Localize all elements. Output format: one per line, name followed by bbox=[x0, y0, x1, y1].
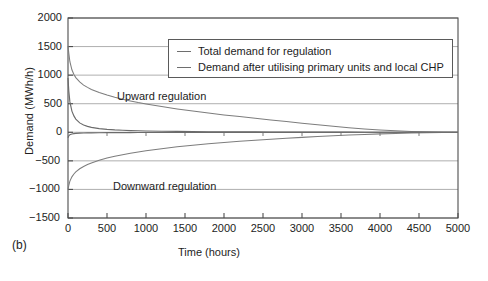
x-axis-label: Time (hours) bbox=[178, 246, 240, 258]
legend-label-total: Total demand for regulation bbox=[198, 45, 331, 57]
chart-legend: Total demand for regulation Demand after… bbox=[168, 39, 453, 78]
y-tick-label: −500 bbox=[14, 154, 60, 166]
x-tick-marks bbox=[68, 213, 458, 218]
legend-label-after: Demand after utilising primary units and… bbox=[198, 61, 444, 73]
legend-after-primary: Demand after utilising primary units and… bbox=[177, 59, 444, 75]
legend-line-swatch-after bbox=[177, 67, 191, 68]
panel-caption: (b) bbox=[12, 238, 27, 252]
x-tick-label: 5000 bbox=[435, 222, 481, 234]
annotation-downward-regulation: Downward regulation bbox=[113, 180, 216, 192]
figure-panel-b: 2000 1500 1000 500 0 −500 −1000 −1500 0 … bbox=[0, 0, 488, 281]
legend-line-swatch-total bbox=[177, 51, 191, 52]
curve-after-primary-upward bbox=[68, 78, 458, 132]
y-tick-label: −1000 bbox=[14, 182, 60, 194]
annotation-upward-regulation: Upward regulation bbox=[117, 90, 206, 102]
legend-total-demand: Total demand for regulation bbox=[177, 43, 331, 59]
y-axis-label: Demand (MWh/h) bbox=[23, 51, 35, 171]
y-tick-label: 2000 bbox=[16, 11, 62, 23]
